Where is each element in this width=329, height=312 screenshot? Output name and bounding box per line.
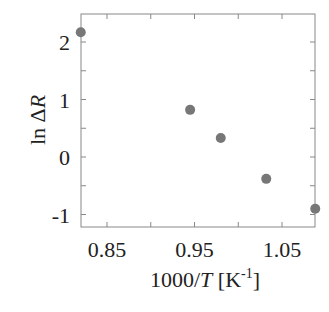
data-point (185, 105, 195, 115)
data-point (76, 27, 86, 37)
y-tick-label: 2 (59, 30, 70, 55)
scatter-chart: 0.850.951.05210-1 1000/T [K-1] ln ΔR (0, 0, 329, 312)
x-tick-label: 0.95 (175, 237, 214, 262)
x-tick-label: 1.05 (263, 237, 302, 262)
y-tick-label: -1 (52, 203, 70, 228)
plot-frame (81, 14, 315, 227)
x-axis-label: 1000/T [K-1] (150, 266, 260, 292)
data-point (216, 133, 226, 143)
x-tick-label: 0.85 (88, 237, 127, 262)
y-axis-label: ln ΔR (25, 94, 50, 145)
data-point (310, 204, 320, 214)
data-point (261, 174, 271, 184)
y-tick-label: 0 (59, 145, 70, 170)
y-tick-label: 1 (59, 88, 70, 113)
